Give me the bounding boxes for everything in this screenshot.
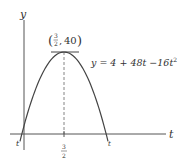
tick-label-left: t bbox=[16, 139, 20, 148]
equation-label: y = 4 + 48t −16t2 bbox=[90, 56, 177, 68]
svg-text:3: 3 bbox=[54, 32, 58, 39]
chart: y t ( 3 2 , 40 ) y = 4 + 48t −16t2 3 2 t… bbox=[0, 0, 188, 166]
tick-label-right: t bbox=[108, 140, 111, 148]
svg-text:): ) bbox=[77, 33, 82, 48]
svg-text:40: 40 bbox=[64, 35, 77, 46]
svg-text:3: 3 bbox=[62, 143, 66, 150]
svg-text:(: ( bbox=[48, 33, 53, 48]
svg-text:2: 2 bbox=[62, 152, 66, 159]
svg-text:,: , bbox=[59, 35, 62, 46]
y-axis-label: y bbox=[19, 8, 27, 21]
t-axis-label: t bbox=[169, 128, 174, 141]
tick-label-mid: 3 2 bbox=[61, 143, 67, 159]
vertex-label: ( 3 2 , 40 ) bbox=[48, 32, 82, 48]
svg-text:2: 2 bbox=[54, 40, 58, 47]
